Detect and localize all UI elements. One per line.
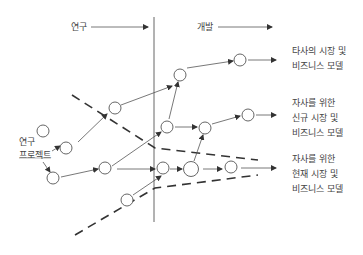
outcome-line: 비즈니스 모델	[292, 59, 346, 74]
arrow	[187, 61, 233, 68]
project-node	[234, 54, 246, 66]
arrow	[194, 135, 203, 161]
project-node	[47, 172, 59, 184]
outcome-line: 신규 시장 및	[292, 111, 343, 126]
research-project-label: 연구 프로젝트	[19, 136, 51, 162]
arrow	[61, 169, 98, 177]
arrow	[78, 114, 107, 142]
arrow	[121, 86, 172, 105]
project-node	[184, 162, 199, 177]
outcome-line: 자사를 위한	[292, 96, 343, 111]
outcome-line: 비즈니스 모델	[292, 182, 343, 197]
project-node	[60, 142, 72, 154]
outcome-line: 자사를 위한	[292, 152, 343, 167]
outcome-new-market: 자사를 위한 신규 시장 및 비즈니스 모델	[292, 96, 343, 141]
arrow	[43, 162, 50, 172]
outcome-other-company: 타사의 시장 및 비즈니스 모델	[292, 44, 346, 74]
project-node	[161, 121, 173, 133]
arrow	[212, 116, 240, 124]
research-phase-label: 연구	[71, 20, 87, 33]
arrow	[52, 146, 60, 151]
outcome-line: 현재 시장 및	[292, 167, 343, 182]
label-line: 연구	[19, 136, 51, 149]
project-node	[242, 109, 254, 121]
project-node	[99, 162, 111, 174]
project-node	[174, 69, 186, 81]
arrow	[169, 82, 178, 119]
project-node	[109, 102, 121, 114]
label-line: 프로젝트	[19, 149, 51, 162]
project-node	[225, 161, 237, 173]
funnel-lower-dashed	[75, 175, 258, 235]
project-node	[157, 162, 169, 174]
project-node	[121, 194, 133, 206]
outcome-line: 비즈니스 모델	[292, 126, 343, 141]
project-node	[199, 122, 211, 134]
outcome-current-market: 자사를 위한 현재 시장 및 비즈니스 모델	[292, 152, 343, 197]
outcome-line: 타사의 시장 및	[292, 44, 346, 59]
development-phase-label: 개발	[197, 20, 213, 33]
